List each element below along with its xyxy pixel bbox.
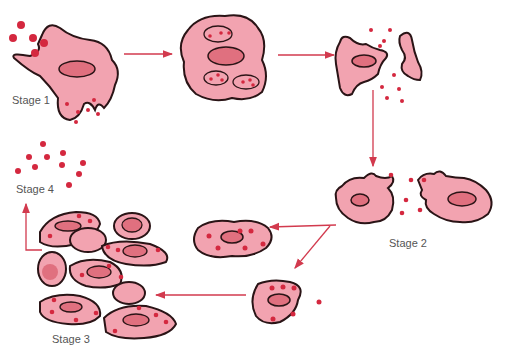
life-cycle-diagram	[0, 0, 512, 353]
stage3-cluster	[38, 212, 176, 338]
stage2-label: Stage 2	[389, 237, 427, 249]
stage3-label: Stage 3	[52, 333, 90, 345]
stage1c-cell	[336, 28, 422, 103]
stage1-label: Stage 1	[12, 94, 50, 106]
stage1b-cell	[181, 15, 266, 100]
stage1-cell	[9, 21, 118, 124]
stage4-label: Stage 4	[16, 183, 54, 195]
stage4-particles	[15, 141, 86, 188]
stage2b-cells	[194, 221, 322, 323]
stage2-cells	[336, 171, 492, 223]
